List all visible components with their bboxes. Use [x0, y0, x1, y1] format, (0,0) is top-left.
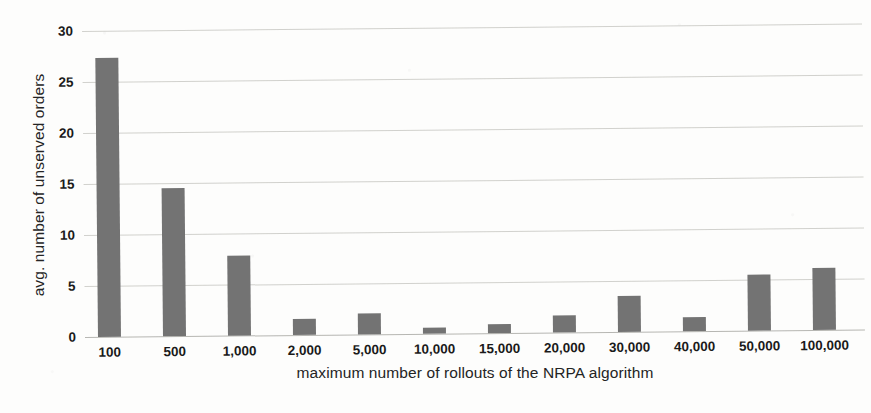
bar: [618, 296, 641, 332]
bar-chart-figure: avg. number of unserved orders 051015202…: [0, 0, 871, 413]
bar: [423, 327, 446, 333]
bar: [553, 315, 576, 333]
gridline: [85, 330, 865, 338]
x-axis-tick-label: 5,000: [353, 342, 387, 357]
bar: [683, 317, 706, 331]
x-axis-tick-label: 15,000: [479, 341, 520, 356]
y-axis-tick-label: 15: [59, 177, 74, 192]
bar: [293, 318, 316, 335]
y-axis-tick-label: 25: [58, 75, 73, 90]
bar: [358, 313, 381, 335]
x-axis-tick-label: 50,000: [739, 338, 780, 353]
bar: [227, 256, 251, 336]
x-axis-tick-label: 20,000: [544, 340, 585, 355]
x-axis-tick-label: 1,000: [223, 343, 257, 358]
gridline: [82, 24, 862, 32]
y-axis-tick-label: 10: [60, 228, 75, 243]
x-axis-tick-label: 500: [163, 344, 186, 359]
bar: [488, 324, 511, 333]
x-axis-title: maximum number of rollouts of the NRPA a…: [85, 364, 865, 382]
y-axis-tick-label: 30: [58, 24, 73, 39]
y-axis-title: avg. number of unserved orders: [22, 20, 56, 350]
x-axis-tick-label: 100: [98, 345, 121, 360]
gridlines: [82, 24, 862, 31]
x-axis-tick-label: 10,000: [414, 341, 455, 356]
bar: [812, 268, 836, 330]
plot-area: 051015202530 1005001,0002,0005,00010,000…: [85, 31, 865, 337]
y-axis-tick-label: 0: [68, 330, 76, 345]
y-axis-tick-label: 5: [68, 279, 76, 294]
y-axis-tick-label: 20: [59, 126, 74, 141]
x-axis-tick-label: 40,000: [674, 339, 715, 354]
bar: [95, 57, 121, 337]
gridline: [84, 177, 864, 185]
gridline: [83, 75, 863, 83]
x-axis-tick-label: 100,000: [800, 338, 849, 353]
bar: [747, 274, 771, 330]
x-axis-tick-label: 2,000: [288, 343, 322, 358]
x-axis-tick-label: 30,000: [609, 340, 650, 355]
gridline: [83, 126, 863, 134]
bar: [162, 188, 186, 336]
gridline: [84, 228, 864, 236]
